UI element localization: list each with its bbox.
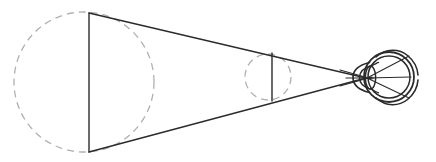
diagram-background [0,0,436,162]
diagram-canvas [0,0,436,162]
visual-angle-diagram [0,0,436,162]
